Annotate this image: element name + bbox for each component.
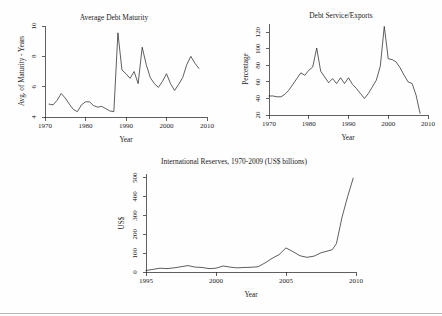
reserves-svg: International Reserves, 1970-2009 (US$ b…	[88, 152, 368, 308]
debt-service-ytick-1: 40	[254, 94, 262, 102]
debt-service-series-line	[269, 26, 420, 113]
maturity-svg: Average Debt Maturity 4 6 8 10	[2, 4, 217, 154]
reserves-ytick-4: 400	[131, 191, 139, 202]
debt-service-svg: Debt Service/Exports 20 40 60 80 100 120	[221, 2, 440, 152]
debt-service-xtick-1: 1980	[302, 120, 317, 128]
maturity-x-axis-title: Year	[119, 136, 133, 144]
debt-service-ytick-0: 20	[254, 111, 262, 119]
maturity-ytick-1: 6	[30, 84, 38, 88]
page-bottom-rule	[0, 313, 442, 314]
debt-service-ytick-4: 100	[254, 43, 262, 54]
chart-debt-service-exports: Debt Service/Exports 20 40 60 80 100 120	[221, 2, 440, 152]
reserves-y-axis-title: US$	[118, 216, 126, 229]
debt-service-x-axis-title: Year	[341, 134, 355, 142]
debt-service-xtick-2: 1990	[342, 120, 357, 128]
debt-service-ytick-5: 120	[254, 27, 262, 38]
debt-service-chart-title: Debt Service/Exports	[309, 11, 373, 20]
maturity-xtick-4: 2010	[200, 122, 215, 130]
reserves-x-ticks: 1995 2000 2005 2010	[139, 272, 364, 285]
maturity-ytick-3: 10	[30, 22, 38, 30]
maturity-ytick-0: 4	[30, 115, 38, 119]
maturity-series-line	[49, 33, 199, 112]
debt-service-xtick-0: 1970	[262, 120, 277, 128]
reserves-xtick-1: 2000	[209, 277, 224, 285]
chart-average-debt-maturity: Average Debt Maturity 4 6 8 10	[2, 4, 217, 154]
reserves-series-line	[146, 178, 353, 270]
maturity-xtick-2: 1990	[119, 122, 134, 130]
debt-service-ytick-2: 60	[254, 78, 262, 86]
chart-international-reserves: International Reserves, 1970-2009 (US$ b…	[88, 152, 368, 308]
reserves-x-axis-title: Year	[244, 291, 258, 299]
debt-service-y-ticks: 20 40 60 80 100 120	[254, 27, 269, 119]
maturity-xtick-0: 1970	[38, 122, 53, 130]
debt-service-x-ticks: 1970 1980 1990 2000 2010	[262, 115, 436, 128]
debt-service-xtick-4: 2010	[421, 120, 436, 128]
figure-page: Average Debt Maturity 4 6 8 10	[0, 0, 442, 316]
debt-service-y-axis-title: Percentage	[242, 53, 250, 85]
reserves-ytick-5: 500	[131, 172, 139, 183]
reserves-ytick-2: 200	[131, 229, 139, 240]
reserves-xtick-2: 2005	[279, 277, 294, 285]
reserves-ytick-1: 100	[131, 247, 139, 258]
reserves-ytick-3: 300	[131, 210, 139, 221]
debt-service-ytick-3: 80	[254, 61, 262, 69]
maturity-xtick-3: 2000	[160, 122, 175, 130]
maturity-ytick-2: 8	[30, 54, 38, 58]
maturity-x-ticks: 1970 1980 1990 2000 2010	[38, 117, 215, 130]
maturity-xtick-1: 1980	[79, 122, 94, 130]
maturity-y-axis-title: Avg. of Maturity - Years	[18, 36, 26, 106]
maturity-chart-title: Average Debt Maturity	[80, 13, 149, 22]
maturity-y-ticks: 4 6 8 10	[30, 22, 45, 119]
debt-service-xtick-3: 2000	[381, 120, 396, 128]
reserves-y-ticks: 0 100 200 300 400 500	[131, 172, 146, 274]
reserves-xtick-0: 1995	[139, 277, 154, 285]
reserves-ytick-0: 0	[131, 270, 139, 274]
reserves-chart-title: International Reserves, 1970-2009 (US$ b…	[161, 157, 307, 166]
reserves-xtick-3: 2010	[349, 277, 364, 285]
